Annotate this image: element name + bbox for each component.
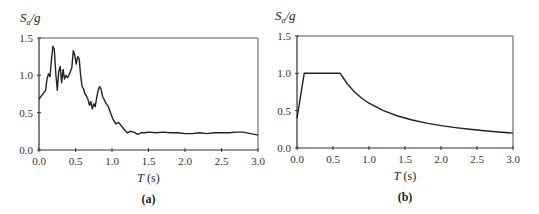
x-tick-label: 0.0 xyxy=(32,155,46,167)
spectrum-line xyxy=(297,73,513,133)
y-tick-label: 0.5 xyxy=(19,107,33,119)
panel-label: (a) xyxy=(142,192,156,206)
y-tick-label: 0.0 xyxy=(277,142,291,154)
y-tick-label: 1.5 xyxy=(19,32,33,44)
y-tick-label: 1.5 xyxy=(277,30,291,42)
y-tick-label: 0.5 xyxy=(277,105,291,117)
x-tick-label: 1.5 xyxy=(398,153,412,165)
x-tick-label: 2.5 xyxy=(470,153,484,165)
x-tick-label: 1.0 xyxy=(362,153,376,165)
x-tick-label: 0.0 xyxy=(290,153,304,165)
x-axis-title: T (s) xyxy=(394,169,416,183)
y-tick-label: 1.0 xyxy=(277,67,291,79)
x-tick-label: 2.5 xyxy=(215,155,229,167)
x-tick-label: 3.0 xyxy=(506,153,520,165)
y-tick-label: 1.0 xyxy=(19,69,33,81)
y-axis-title: Sa/g xyxy=(275,8,296,25)
chart-figure: 0.00.51.01.52.02.53.00.00.51.01.5Sa/gT (… xyxy=(0,0,539,214)
x-tick-label: 0.5 xyxy=(69,155,83,167)
x-tick-label: 1.0 xyxy=(105,155,119,167)
spectrum-line xyxy=(39,46,258,135)
y-axis-title: Sa/g xyxy=(20,10,41,27)
x-tick-label: 2.0 xyxy=(434,153,448,165)
x-axis-title: T (s) xyxy=(137,171,159,185)
x-tick-label: 1.5 xyxy=(142,155,156,167)
x-tick-label: 0.5 xyxy=(326,153,340,165)
x-tick-label: 2.0 xyxy=(178,155,192,167)
x-tick-label: 3.0 xyxy=(251,155,265,167)
chart-panel-b: 0.00.51.01.52.02.53.00.00.51.01.5Sa/gT (… xyxy=(275,8,520,204)
y-tick-label: 0.0 xyxy=(19,144,33,156)
chart-panel-a: 0.00.51.01.52.02.53.00.00.51.01.5Sa/gT (… xyxy=(19,10,265,206)
panel-label: (b) xyxy=(398,190,413,204)
